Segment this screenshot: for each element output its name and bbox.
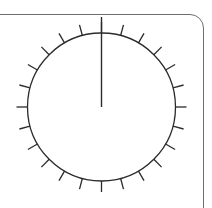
dial-tick xyxy=(139,33,145,43)
dial-tick xyxy=(121,178,124,189)
dial-widget xyxy=(0,0,212,208)
dial-tick xyxy=(173,85,184,88)
dial-tick xyxy=(166,144,176,150)
dial-tick xyxy=(154,47,162,55)
dial-tick xyxy=(19,85,30,88)
dial-tick xyxy=(154,159,162,167)
dial-tick xyxy=(80,25,83,36)
dial-tick xyxy=(59,171,65,181)
dial-tick xyxy=(121,25,124,36)
dial-tick xyxy=(173,126,184,129)
dial-tick xyxy=(80,178,83,189)
dial-face xyxy=(0,0,212,208)
dial-tick xyxy=(28,144,38,150)
dial-tick xyxy=(59,33,65,43)
dial-tick xyxy=(139,171,145,181)
dial-tick xyxy=(166,65,176,71)
dial-tick xyxy=(28,65,38,71)
dial-tick xyxy=(41,159,49,167)
dial-tick xyxy=(41,47,49,55)
dial-tick xyxy=(19,126,30,129)
